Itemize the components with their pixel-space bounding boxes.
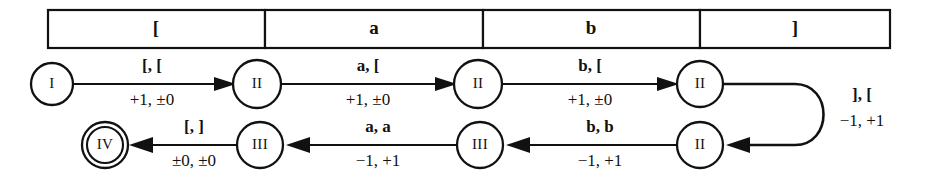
transition-t6: a, a −1, +1 (286, 117, 457, 170)
tape-cell-symbol-3: ] (792, 17, 798, 38)
transition-t2-move: +1, ±0 (346, 90, 390, 109)
transition-t4: ], [ −1, +1 (723, 84, 884, 153)
transition-t6-arrowhead-icon (286, 137, 310, 153)
state-s1-label: I (49, 75, 54, 91)
state-s2: II (233, 60, 281, 108)
state-s6: III (457, 122, 503, 168)
state-s3: II (454, 60, 502, 108)
state-s3-label: II (473, 75, 484, 91)
transition-t7-read-write: [, ] (184, 117, 204, 136)
state-s5: II (677, 122, 723, 168)
transition-t7-move: ±0, ±0 (172, 151, 216, 170)
transition-t5: b, b −1, +1 (506, 117, 677, 170)
state-s9-accepting: IV (82, 122, 128, 168)
tape: [ a b ] (48, 10, 890, 48)
transition-t5-arrowhead-icon (506, 137, 530, 153)
state-s4: II (677, 61, 723, 107)
state-s5-label: II (695, 136, 706, 152)
state-s1: I (31, 63, 73, 105)
turing-machine-figure: [ a b ] [, [ +1, ±0 a, [ +1, ±0 (0, 0, 935, 185)
transition-t1-move: +1, ±0 (130, 90, 174, 109)
transition-t1: [, [ +1, ±0 (73, 56, 236, 109)
state-s7: III (237, 122, 283, 168)
transition-t7: [, ] ±0, ±0 (129, 117, 237, 170)
transition-t4-arrowhead-icon (726, 137, 750, 153)
transition-t3-read-write: b, [ (578, 56, 602, 75)
state-s9-label: IV (97, 136, 113, 152)
transition-t4-read-write: ], [ (852, 85, 872, 104)
transition-t4-curve (723, 84, 824, 145)
transition-t1-read-write: [, [ (142, 56, 162, 75)
state-s7-label: III (252, 136, 268, 152)
transition-t5-read-write: b, b (586, 117, 613, 136)
tape-cell-symbol-0: [ (153, 17, 159, 38)
state-s4-label: II (695, 75, 706, 91)
transition-t6-read-write: a, a (365, 117, 391, 136)
transition-t3-move: +1, ±0 (568, 90, 612, 109)
transition-t3: b, [ +1, ±0 (502, 56, 679, 109)
state-s2-label: II (252, 75, 263, 91)
transition-t2-read-write: a, [ (357, 56, 380, 75)
state-diagram-canvas: [ a b ] [, [ +1, ±0 a, [ +1, ±0 (0, 0, 935, 185)
state-s6-label: III (472, 136, 488, 152)
transition-t2: a, [ +1, ±0 (281, 56, 457, 109)
transition-t4-move: −1, +1 (840, 111, 885, 130)
transition-t7-arrowhead-icon (129, 137, 153, 153)
transition-t6-move: −1, +1 (356, 151, 401, 170)
transition-t3-arrowhead-icon (657, 77, 679, 91)
transition-t5-move: −1, +1 (578, 151, 623, 170)
tape-cell-symbol-2: b (586, 17, 597, 38)
tape-cell-symbol-1: a (369, 17, 379, 38)
